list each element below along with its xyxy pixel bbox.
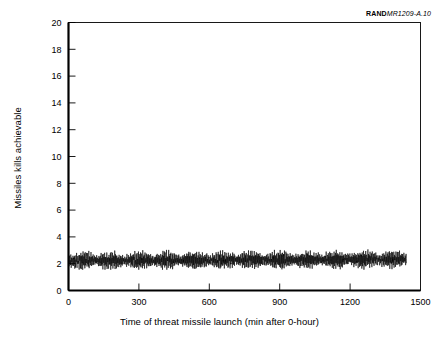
- y-tick-label-12: 12: [51, 125, 61, 135]
- y-tick-label-0: 0: [56, 286, 61, 296]
- chart-svg: 02468101214161820030060090012001500: [0, 0, 439, 346]
- chart-plot-area: 02468101214161820030060090012001500: [0, 0, 439, 346]
- y-tick-label-16: 16: [51, 71, 61, 81]
- x-tick-label-600: 600: [202, 297, 217, 307]
- x-tick-label-900: 900: [272, 297, 287, 307]
- data-series-missile-kills: [69, 249, 407, 269]
- x-tick-label-1200: 1200: [340, 297, 360, 307]
- x-tick-label-300: 300: [131, 297, 146, 307]
- y-tick-label-4: 4: [56, 232, 61, 242]
- x-axis-title: Time of threat missile launch (min after…: [0, 316, 439, 328]
- y-tick-label-18: 18: [51, 45, 61, 55]
- y-tick-label-8: 8: [56, 179, 61, 189]
- figure-container: RANDMR1209-A.10 024681012141618200300600…: [0, 0, 439, 346]
- y-tick-label-14: 14: [51, 98, 61, 108]
- y-tick-label-2: 2: [56, 259, 61, 269]
- y-axis-title: Missiles kills achievable: [12, 78, 24, 238]
- x-tick-label-1500: 1500: [410, 297, 430, 307]
- y-tick-label-10: 10: [51, 152, 61, 162]
- y-tick-label-20: 20: [51, 18, 61, 28]
- y-tick-label-6: 6: [56, 205, 61, 215]
- x-tick-label-0: 0: [66, 297, 71, 307]
- y-axis-title-wrapper: Missiles kills achievable: [12, 0, 24, 78]
